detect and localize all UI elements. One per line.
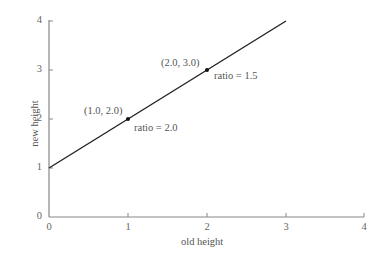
chart-canvas: [0, 0, 384, 259]
point-2-coords: (2.0, 3.0): [161, 58, 200, 69]
x-tick-0: 0: [42, 222, 56, 233]
x-tick-3: 3: [279, 222, 293, 233]
data-line: [49, 21, 286, 168]
x-tick-1: 1: [121, 222, 135, 233]
y-tick-3: 3: [28, 64, 42, 75]
y-tick-4: 4: [28, 15, 42, 26]
point-2-ratio: ratio = 1.5: [214, 71, 258, 82]
point-1-coords: (1.0, 2.0): [84, 106, 123, 117]
x-axis-label: old height: [181, 237, 223, 248]
point-1-ratio: ratio = 2.0: [134, 123, 178, 134]
data-point-2: [205, 68, 209, 72]
y-tick-0: 0: [28, 211, 42, 222]
x-tick-2: 2: [200, 222, 214, 233]
y-tick-1: 1: [28, 162, 42, 173]
y-axis-label: new height: [29, 94, 40, 154]
data-point-1: [126, 117, 130, 121]
x-tick-4: 4: [357, 222, 371, 233]
